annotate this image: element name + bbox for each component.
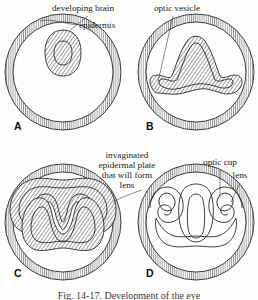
label-lens: lens <box>233 170 248 180</box>
figure-caption: Fig. 14-17. Development of the eye <box>58 290 201 300</box>
label-optic-cup: optic cup <box>203 157 237 167</box>
label-invaginated-line1: invaginated <box>106 150 149 160</box>
label-developing-brain: developing brain <box>52 3 114 13</box>
embryology-figure: A developing brain epidermis B optic ves… <box>0 0 258 300</box>
panel-letter-b: B <box>146 120 154 132</box>
label-invaginated-line4: lens <box>120 180 135 190</box>
label-epidermis: epidermis <box>79 20 116 30</box>
label-invaginated-line3: that will form <box>102 170 153 180</box>
label-invaginated-line2: epidermal plate <box>99 160 156 170</box>
panel-letter-a: A <box>14 120 22 132</box>
label-optic-vesicle: optic vesicle <box>154 3 200 13</box>
figure-canvas: A developing brain epidermis B optic ves… <box>0 0 258 300</box>
panel-letter-d: D <box>146 267 154 279</box>
panel-letter-c: C <box>14 267 22 279</box>
